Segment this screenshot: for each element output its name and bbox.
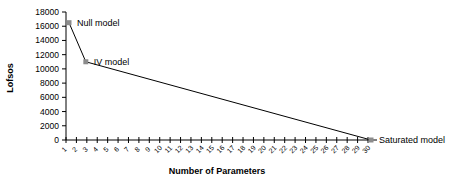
x-tick-label: 4 (92, 145, 100, 153)
x-tick-label: 11 (163, 144, 173, 154)
x-tick-label: 8 (133, 145, 141, 153)
x-tick-label: 22 (278, 144, 289, 155)
x-tick-label: 14 (194, 144, 205, 155)
x-axis-title: Number of Parameters (169, 166, 266, 176)
x-tick-label: 15 (205, 144, 216, 155)
x-tick-label: 21 (267, 144, 278, 155)
data-point-marker (67, 20, 72, 25)
data-point-marker (83, 59, 88, 64)
y-tick-label: 18000 (35, 7, 59, 17)
x-tick-label: 30 (361, 144, 372, 155)
x-tick-label: 26 (319, 144, 330, 155)
line-chart: 0200040006000800010000120001400016000180… (0, 0, 464, 183)
x-tick-label: 23 (288, 144, 299, 155)
data-point-marker (369, 138, 374, 143)
x-tick-label: 28 (340, 144, 351, 155)
y-tick-label: 4000 (40, 107, 59, 117)
data-series: Null modelIV modelSaturated model (67, 18, 446, 145)
x-tick-label: 9 (144, 145, 152, 153)
x-tick-label: 13 (184, 144, 195, 155)
series-line (69, 23, 371, 140)
x-tick-label: 17 (226, 144, 237, 155)
x-tick-label: 20 (257, 144, 268, 155)
x-tick-label: 2 (71, 145, 79, 153)
x-tick-label: 6 (112, 145, 120, 153)
y-axis-title: Lofsos (5, 63, 15, 93)
y-tick-label: 8000 (40, 78, 59, 88)
y-axis: 0200040006000800010000120001400016000180… (35, 7, 66, 145)
x-tick-label: 1 (60, 145, 68, 153)
x-tick-label: 10 (153, 144, 164, 155)
x-tick-label: 18 (236, 144, 247, 155)
y-tick-label: 16000 (35, 21, 59, 31)
x-tick-label: 16 (215, 144, 226, 155)
x-tick-label: 24 (299, 144, 310, 155)
y-tick-label: 2000 (40, 121, 59, 131)
x-tick-label: 7 (123, 145, 131, 153)
x-tick-label: 3 (81, 145, 89, 153)
x-tick-label: 27 (330, 144, 341, 155)
x-tick-label: 5 (102, 145, 110, 153)
data-point-label: IV model (94, 57, 130, 67)
x-tick-label: 19 (246, 144, 257, 155)
y-tick-label: 14000 (35, 35, 59, 45)
y-tick-label: 0 (54, 135, 59, 145)
data-point-label: Saturated model (379, 135, 445, 145)
y-tick-label: 12000 (35, 50, 59, 60)
x-tick-label: 29 (351, 144, 362, 155)
x-tick-label: 25 (309, 144, 320, 155)
y-tick-label: 6000 (40, 92, 59, 102)
x-axis: 1234567891011121314151617181920212223242… (60, 137, 377, 154)
y-tick-label: 10000 (35, 64, 59, 74)
data-point-label: Null model (77, 18, 120, 28)
x-tick-label: 12 (174, 144, 185, 155)
